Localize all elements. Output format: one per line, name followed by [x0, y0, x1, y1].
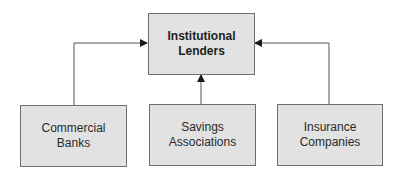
- node-label-line1: Institutional: [168, 29, 236, 44]
- node-label-line1: Savings: [169, 120, 236, 135]
- node-label-line2: Companies: [300, 135, 361, 150]
- edge-insurance-companies: [255, 43, 329, 104]
- node-label-line1: Insurance: [300, 120, 361, 135]
- node-label-line2: Banks: [41, 136, 105, 151]
- node-label-line2: Lenders: [168, 44, 236, 59]
- node-label-line2: Associations: [169, 135, 236, 150]
- node-commercial-banks: Commercial Banks: [20, 105, 127, 167]
- node-institutional-lenders: Institutional Lenders: [148, 13, 255, 75]
- node-insurance-companies: Insurance Companies: [277, 104, 383, 166]
- node-label-line1: Commercial: [41, 121, 105, 136]
- edge-commercial-banks: [74, 43, 147, 105]
- node-savings-associations: Savings Associations: [149, 104, 256, 166]
